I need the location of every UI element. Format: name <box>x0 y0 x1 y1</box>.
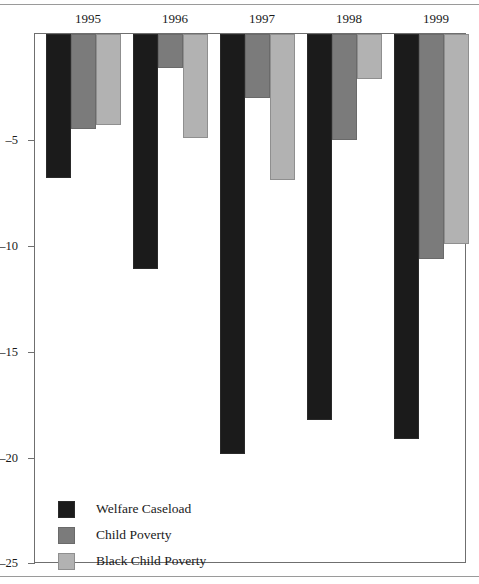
legend-item-welfare-caseload: Welfare Caseload <box>58 496 206 522</box>
legend-label: Child Poverty <box>96 527 171 543</box>
y-tick-mark: –20 <box>28 458 35 459</box>
bar-1997-black-child-poverty <box>270 34 295 180</box>
legend-item-black-child-poverty: Black Child Poverty <box>58 548 206 574</box>
bar-chart: –5 –10 –15 –20 –25 1995 1996 1997 1998 1… <box>34 33 466 563</box>
bar-1995-black-child-poverty <box>96 34 121 125</box>
bar-1995-welfare-caseload <box>46 34 71 178</box>
legend-label: Welfare Caseload <box>96 501 191 517</box>
bar-1999-welfare-caseload <box>394 34 419 439</box>
bar-1997-welfare-caseload <box>220 34 245 454</box>
y-axis-label: –15 <box>0 345 18 360</box>
x-axis-group-label: 1995 <box>75 11 101 27</box>
x-axis-group-label: 1996 <box>162 11 188 27</box>
y-tick-mark: –25 <box>28 563 35 564</box>
y-tick-mark: –10 <box>28 246 35 247</box>
x-axis-group-label: 1997 <box>249 11 275 27</box>
bar-1998-black-child-poverty <box>357 34 382 79</box>
bar-1996-welfare-caseload <box>133 34 158 269</box>
legend-item-child-poverty: Child Poverty <box>58 522 206 548</box>
y-axis-label: –5 <box>6 133 19 148</box>
legend-swatch-child-poverty <box>58 527 75 544</box>
bar-1999-black-child-poverty <box>444 34 469 244</box>
y-tick-mark: –15 <box>28 352 35 353</box>
legend-swatch-black-child-poverty <box>58 553 75 570</box>
y-tick-mark: –5 <box>28 140 35 141</box>
legend-swatch-welfare-caseload <box>58 501 75 518</box>
bar-1998-child-poverty <box>332 34 357 140</box>
page-rule-bottom <box>0 576 479 577</box>
page-rule-top <box>0 4 479 5</box>
plot-area: –5 –10 –15 –20 –25 1995 1996 1997 1998 1… <box>35 34 465 562</box>
y-axis-label: –20 <box>0 451 18 466</box>
x-axis-group-label: 1999 <box>423 11 449 27</box>
bar-1997-child-poverty <box>245 34 270 98</box>
y-axis-label: –10 <box>0 239 18 254</box>
bar-1996-child-poverty <box>158 34 183 68</box>
y-axis-label: –25 <box>0 556 18 571</box>
bar-1995-child-poverty <box>71 34 96 129</box>
x-axis-group-label: 1998 <box>336 11 362 27</box>
legend-label: Black Child Poverty <box>96 553 206 569</box>
chart-legend: Welfare Caseload Child Poverty Black Chi… <box>58 496 206 574</box>
bar-1998-welfare-caseload <box>307 34 332 420</box>
bar-1996-black-child-poverty <box>183 34 208 138</box>
bar-1999-child-poverty <box>419 34 444 259</box>
